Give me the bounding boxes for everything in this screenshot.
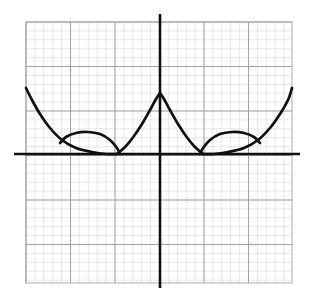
graph-figure bbox=[0, 0, 310, 288]
curve-left-outer-branch bbox=[26, 88, 117, 154]
curve-right-outer-branch bbox=[203, 88, 292, 154]
graph-canvas bbox=[0, 0, 310, 288]
